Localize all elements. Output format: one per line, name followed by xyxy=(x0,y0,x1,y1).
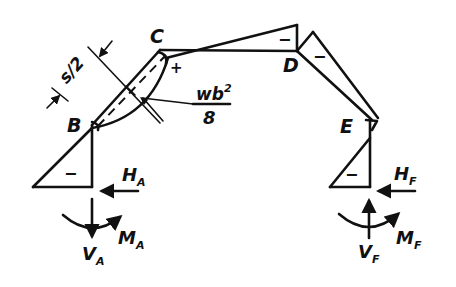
DE-sign: − xyxy=(313,47,326,66)
member-DE xyxy=(297,32,378,130)
left-column-sign: − xyxy=(64,164,77,183)
node-B-label: B xyxy=(67,114,81,136)
moment-numerator: wb2 xyxy=(196,82,232,104)
dimension-label: s/2 xyxy=(55,53,89,87)
left-column-moment-diagram xyxy=(33,125,92,187)
moment-denominator: 8 xyxy=(203,107,216,128)
CD-sign: − xyxy=(278,30,291,49)
node-D-label: D xyxy=(283,54,299,76)
C-corner-sign: + xyxy=(170,59,183,77)
HA-label: HA xyxy=(122,164,146,189)
VF-label: VF xyxy=(358,241,380,266)
VA-label: VA xyxy=(82,243,104,268)
frame-diagram: − s/2 wb2 8 − + − xyxy=(0,0,456,287)
MA-label: MA xyxy=(118,227,144,252)
MF-label: MF xyxy=(396,227,422,252)
HF-label: HF xyxy=(394,163,417,188)
node-C-label: C xyxy=(150,25,164,47)
diagram-svg: − s/2 wb2 8 − + − xyxy=(0,0,456,287)
node-E-label: E xyxy=(340,115,353,137)
member-CD xyxy=(160,25,297,58)
right-column-sign: − xyxy=(345,165,358,184)
